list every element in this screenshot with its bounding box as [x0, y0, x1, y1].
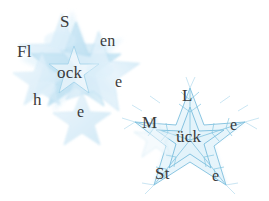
captcha-glyph-e-4: e [212, 168, 219, 184]
captcha-glyph-s: S [60, 13, 70, 30]
captcha-glyph-l: L [182, 87, 193, 104]
captcha-glyph-ock: ock [57, 64, 82, 81]
captcha-glyph-m: M [142, 114, 157, 131]
captcha-glyph-e-2: e [77, 104, 84, 120]
captcha-glyph-e-1: e [115, 74, 122, 90]
captcha-glyph-ueck: ück [176, 128, 201, 145]
captcha-glyph-en: en [100, 33, 116, 49]
captcha-glyph-h: h [33, 91, 42, 108]
captcha-glyph-fl: Fl [17, 43, 32, 60]
captcha-glyph-st: St [155, 165, 170, 182]
captcha-glyph-e-3: e [230, 117, 237, 133]
captcha-image: Fl S en ock e h e L M ück e St e [0, 0, 269, 201]
